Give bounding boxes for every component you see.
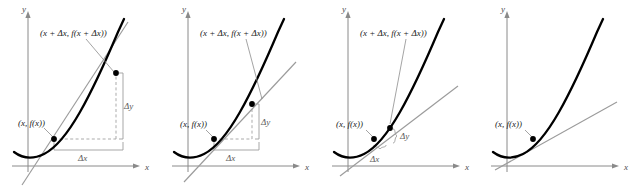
x-axis-label: x bbox=[304, 162, 309, 172]
x-axis-label: x bbox=[464, 162, 469, 172]
delta-rectangle-1 bbox=[54, 73, 116, 139]
axes-group-4 bbox=[491, 11, 619, 172]
secant-line-3 bbox=[340, 86, 458, 176]
delta-y-label-1: Δy bbox=[123, 101, 133, 111]
delta-y-label-3: Δy bbox=[399, 131, 409, 141]
figure-root: y x Δy Δx bbox=[0, 0, 638, 190]
leader-line-p-1 bbox=[44, 128, 54, 138]
delta-y-label-2: Δy bbox=[260, 117, 270, 127]
y-axis-arrow-icon bbox=[345, 11, 350, 18]
point-q-label-3: (x + Δx, f(x + Δx)) bbox=[360, 28, 427, 38]
x-axis-arrow-icon bbox=[293, 163, 300, 168]
y-axis-arrow-icon bbox=[504, 11, 509, 18]
function-curve-2 bbox=[174, 19, 284, 158]
delta-y-brace-3 bbox=[393, 129, 397, 143]
panel-3: y x Δy Δx (x + Δx, f(x + Δx)) (x, f(x)) bbox=[320, 0, 479, 190]
point-p-label-4: (x, f(x)) bbox=[495, 119, 522, 129]
point-p-marker-2 bbox=[211, 136, 217, 142]
leader-line-q-2 bbox=[246, 39, 262, 99]
point-q-label-1: (x + Δx, f(x + Δx)) bbox=[40, 28, 107, 38]
panel-2: y x Δy Δx (x + Δx, f(x + Δx)) (x, f bbox=[160, 0, 319, 190]
function-curve-1 bbox=[14, 19, 124, 158]
point-q-label-2: (x + Δx, f(x + Δx)) bbox=[200, 28, 267, 38]
tangent-line-4 bbox=[495, 102, 617, 170]
function-curve-4 bbox=[493, 19, 603, 158]
point-p-label-1: (x, f(x)) bbox=[18, 118, 45, 128]
panel-4: y x (x, f(x)) bbox=[479, 0, 638, 190]
function-curve-3 bbox=[334, 19, 444, 158]
point-q-marker-1 bbox=[113, 70, 119, 76]
delta-x-label-2: Δx bbox=[225, 153, 235, 163]
y-axis-label: y bbox=[341, 4, 346, 14]
point-q-marker-2 bbox=[249, 101, 255, 107]
point-p-label-2: (x, f(x)) bbox=[180, 119, 207, 129]
x-axis-arrow-icon bbox=[612, 163, 619, 168]
leader-line-q-1 bbox=[86, 39, 114, 72]
y-axis-arrow-icon bbox=[185, 11, 190, 18]
y-axis-arrow-icon bbox=[25, 11, 30, 18]
point-p-label-3: (x, f(x)) bbox=[336, 119, 363, 129]
y-axis-label: y bbox=[181, 4, 186, 14]
point-p-marker-3 bbox=[371, 136, 377, 142]
point-q-marker-3 bbox=[387, 125, 393, 131]
delta-x-bracket-1 bbox=[54, 142, 123, 150]
point-p-marker-1 bbox=[51, 136, 57, 142]
panel-1: y x Δy Δx bbox=[0, 0, 159, 190]
y-axis-label: y bbox=[21, 4, 26, 14]
x-axis-label: x bbox=[623, 162, 628, 172]
point-p-marker-4 bbox=[530, 136, 536, 142]
delta-x-label-1: Δx bbox=[77, 153, 87, 163]
delta-y-bracket-2 bbox=[255, 104, 259, 139]
x-axis-arrow-icon bbox=[133, 163, 140, 168]
x-axis-arrow-icon bbox=[453, 163, 460, 168]
y-axis-label: y bbox=[500, 4, 505, 14]
delta-y-bracket-1 bbox=[119, 73, 123, 139]
leader-line-q-3 bbox=[390, 39, 406, 124]
delta-x-label-3: Δx bbox=[369, 154, 379, 164]
x-axis-label: x bbox=[144, 162, 149, 172]
